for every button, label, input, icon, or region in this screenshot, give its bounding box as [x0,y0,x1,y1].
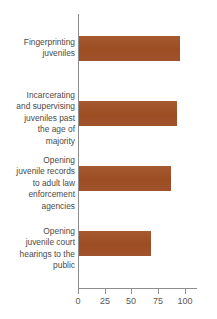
category-label-line: juvenile court [3,237,75,248]
category-label-line: Incarcerating [3,90,75,101]
category-label-line: the age of [3,124,75,135]
x-axis-tick-label-50: 50 [119,296,143,307]
x-axis-tick-0 [78,289,79,294]
x-axis-tick-label-100: 100 [173,296,197,307]
category-label-line: Fingerprinting [3,37,75,48]
category-label-opening-court-hearings-to-public: Openingjuvenile courthearings to thepubl… [3,226,75,272]
x-axis-tick-75 [158,289,159,294]
category-label-line: juvenile records [3,166,75,177]
bar-opening-court-hearings-to-public [79,231,151,256]
x-axis-tick-25 [105,289,106,294]
category-label-line: juveniles [3,48,75,59]
x-axis-tick-100 [185,289,186,294]
x-axis-tick-label-75: 75 [146,296,170,307]
category-label-line: juveniles past [3,113,75,124]
bar-incarcerating-supervising-past-majority [79,101,177,126]
category-label-opening-records-to-law-enforcement: Openingjuvenile recordsto adult lawenfor… [3,155,75,212]
category-label-line: Opening [3,155,75,166]
category-label-line: enforcement [3,189,75,200]
category-label-line: and supervising [3,101,75,112]
category-label-line: agencies [3,201,75,212]
category-label-line: Opening [3,226,75,237]
bar-fingerprinting-juveniles [79,36,180,61]
category-label-line: hearings to the [3,249,75,260]
category-label-line: public [3,260,75,271]
category-label-line: majority [3,136,75,147]
bar-chart: 0 25 50 75 100 Fingerprintingjuveniles I… [0,0,217,319]
bar-opening-records-to-law-enforcement [79,166,171,191]
x-axis-tick-label-25: 25 [93,296,117,307]
category-label-fingerprinting-juveniles: Fingerprintingjuveniles [3,37,75,60]
category-label-incarcerating-supervising-past-majority: Incarceratingand supervisingjuveniles pa… [3,90,75,147]
category-label-line: to adult law [3,178,75,189]
x-axis-tick-label-0: 0 [66,296,90,307]
plot-area: 0 25 50 75 100 Fingerprintingjuveniles I… [0,0,217,319]
x-axis-tick-50 [131,289,132,294]
x-axis-line [78,288,197,289]
